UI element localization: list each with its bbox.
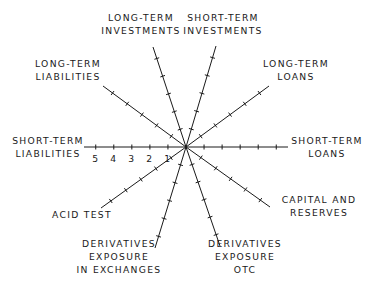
tick-mark	[170, 134, 173, 138]
axis-label-short-term-liabilities: SHORT-TERMLIABILITIES	[12, 135, 84, 159]
axis-long-term-loans	[186, 86, 269, 147]
axis-label-capital-and-reserves: CAPITAL ANDRESERVES	[282, 194, 357, 218]
tick-mark	[258, 91, 261, 95]
axis-label-line: LONG-TERM	[108, 12, 174, 23]
tick-mark	[167, 200, 172, 201]
axis-long-term-investments	[153, 47, 186, 147]
axis-label-derivatives-exposure-otc: DERIVATIVESEXPOSUREOTC	[208, 238, 282, 275]
axis-label-line: LOANS	[308, 148, 345, 159]
axis-label-line: LONG-TERM	[35, 58, 101, 69]
axis-label-line: SHORT-TERM	[291, 135, 363, 146]
tick-mark	[194, 111, 199, 112]
axis-label-line: EXPOSURE	[215, 251, 275, 262]
axis-label-line: CAPITAL AND	[282, 194, 357, 205]
tick-mark	[178, 164, 183, 165]
tick-mark	[126, 102, 129, 106]
axis-label-line: LONG-TERM	[263, 58, 329, 69]
axis-label-line: INVESTMENTS	[183, 25, 262, 36]
scale-label: 3	[128, 153, 135, 164]
axis-label-line: IN EXCHANGES	[77, 264, 162, 275]
axis-label-line: LIABILITIES	[35, 71, 100, 82]
axis-label-long-term-loans: LONG-TERMLOANS	[263, 58, 329, 82]
tick-mark	[205, 75, 210, 76]
tick-mark	[199, 156, 202, 160]
scale-label: 1	[164, 153, 171, 164]
tick-mark	[140, 113, 143, 117]
tick-mark	[214, 123, 217, 127]
axis-label-line: OTC	[234, 264, 257, 275]
axis-spokes	[84, 46, 288, 248]
axis-label-line: EXPOSURE	[89, 251, 149, 262]
axis-label-short-term-investments: SHORT-TERMINVESTMENTS	[183, 12, 262, 36]
tick-mark	[124, 188, 127, 192]
tick-mark	[156, 236, 161, 237]
scale-label: 4	[110, 153, 117, 164]
axis-label-line: SHORT-TERM	[187, 12, 259, 23]
tick-mark	[229, 113, 232, 117]
tick-mark	[259, 198, 262, 202]
axis-label-long-term-investments: LONG-TERMINVESTMENTS	[101, 12, 180, 36]
scale-label: 2	[146, 153, 153, 164]
axis-label-line: DERIVATIVES	[208, 238, 282, 249]
tick-mark	[210, 57, 215, 58]
tick-mark	[109, 199, 112, 203]
tick-mark	[173, 182, 178, 183]
tick-mark	[214, 166, 217, 170]
axis-label-long-term-liabilities: LONG-TERMLIABILITIES	[35, 58, 101, 82]
axis-label-line: RESERVES	[290, 207, 348, 218]
radar-diagram: 12345 SHORT-TERMLIABILITIESLONG-TERMLIAB…	[0, 0, 369, 302]
tick-mark	[155, 123, 158, 127]
tick-mark	[189, 128, 194, 129]
scale-label: 5	[92, 153, 99, 164]
axis-label-derivatives-exposure-in-exchanges: DERIVATIVESEXPOSUREIN EXCHANGES	[77, 238, 162, 275]
tick-mark	[243, 102, 246, 106]
axis-label-line: LOANS	[277, 71, 314, 82]
axis-label-line: LIABILITIES	[15, 148, 80, 159]
tick-mark	[199, 134, 202, 138]
axis-label-line: SHORT-TERM	[12, 135, 84, 146]
tick-mark	[111, 91, 114, 95]
tick-mark	[229, 177, 232, 181]
axis-label-line: ACID TEST	[52, 209, 112, 220]
axis-short-term-investments	[186, 46, 216, 147]
axis-label-line: DERIVATIVES	[82, 238, 156, 249]
tick-mark	[139, 177, 142, 181]
tick-mark	[154, 167, 157, 171]
scale-labels: 12345	[92, 153, 171, 164]
radar-axes-canvas: 12345 SHORT-TERMLIABILITIESLONG-TERMLIAB…	[0, 0, 369, 302]
axis-label-acid-test: ACID TEST	[52, 209, 112, 220]
axis-label-short-term-loans: SHORT-TERMLOANS	[291, 135, 363, 159]
tick-mark	[200, 93, 205, 94]
axis-derivatives-exposure-otc	[186, 147, 220, 246]
axis-capital-and-reserves	[186, 147, 270, 207]
tick-mark	[244, 187, 247, 191]
axis-long-term-liabilities	[103, 86, 186, 147]
axis-label-line: INVESTMENTS	[101, 25, 180, 36]
tick-mark	[162, 218, 167, 219]
